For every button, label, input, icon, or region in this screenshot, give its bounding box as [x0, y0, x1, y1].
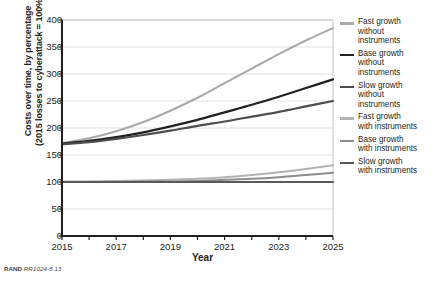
x-axis-tick-label: 2019 [160, 242, 181, 252]
y-axis-tick-label: 300 [28, 69, 62, 79]
y-axis-tick-label: 150 [28, 150, 62, 160]
legend-item-0[interactable]: Fast growth without instruments [340, 17, 448, 46]
chart-legend: Fast growth without instrumentsBase grow… [340, 17, 448, 179]
figure-container: Costs over time, by percentage (2015 los… [0, 0, 448, 283]
legend-swatch-icon [340, 162, 354, 165]
y-axis-tick-label: 400 [28, 15, 62, 25]
legend-swatch-icon [340, 117, 354, 120]
figure-source-note: RAND RR1024-5.13 [4, 265, 62, 272]
legend-item-4[interactable]: Base growth with instruments [340, 135, 448, 154]
legend-label: Base growth without instruments [358, 49, 404, 78]
legend-swatch-icon [340, 54, 354, 57]
y-axis-tick-label: 0 [28, 231, 62, 241]
legend-swatch-icon [340, 22, 354, 25]
legend-swatch-icon [340, 86, 354, 89]
y-axis-tick-label: 350 [28, 42, 62, 52]
series-line-2 [62, 101, 333, 144]
legend-label: Slow growth with instruments [358, 157, 417, 176]
legend-item-3[interactable]: Fast growth with instruments [340, 112, 448, 131]
y-axis-tick-label: 50 [28, 204, 62, 214]
legend-item-2[interactable]: Slow growth without instruments [340, 81, 448, 110]
x-axis-tick-label: 2015 [51, 242, 72, 252]
legend-label: Fast growth without instruments [358, 17, 401, 46]
x-axis-tick-label: 2017 [106, 242, 127, 252]
legend-item-1[interactable]: Base growth without instruments [340, 49, 448, 78]
x-axis-tick-label: 2021 [214, 242, 235, 252]
legend-label: Base growth with instruments [358, 135, 417, 154]
x-axis-tick-label: 2025 [322, 242, 343, 252]
source-brand: RAND [4, 265, 22, 272]
y-axis-tick-label: 200 [28, 123, 62, 133]
legend-item-5[interactable]: Slow growth with instruments [340, 157, 448, 176]
legend-swatch-icon [340, 140, 354, 143]
x-axis-tick-label: 2023 [268, 242, 289, 252]
y-axis-tick-label: 250 [28, 96, 62, 106]
legend-label: Fast growth with instruments [358, 112, 417, 131]
source-reference: RR1024-5.13 [24, 265, 62, 272]
y-axis-tick-label: 100 [28, 177, 62, 187]
series-line-3 [62, 165, 333, 181]
x-axis-title: Year [60, 252, 345, 263]
legend-label: Slow growth without instruments [358, 81, 403, 110]
